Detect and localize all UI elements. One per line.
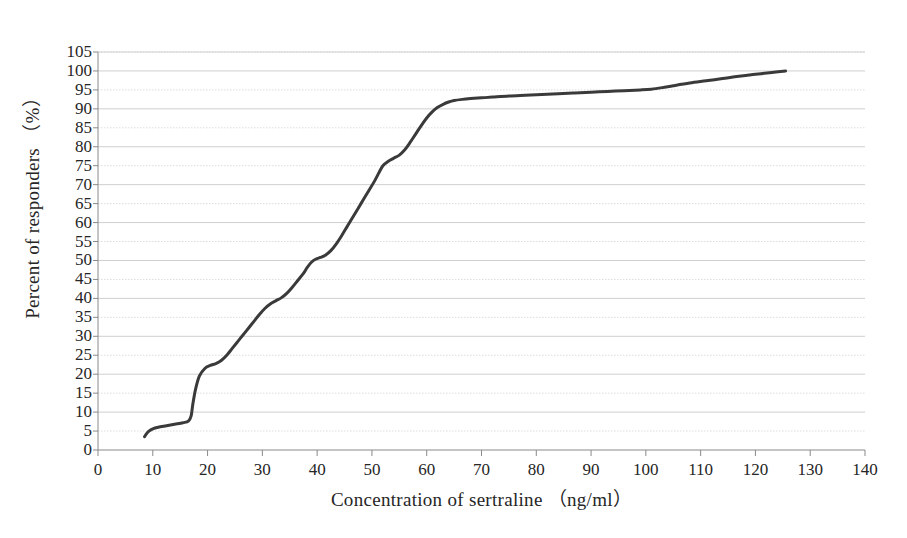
chart-figure: 0510152025303540455055606570758085909510… <box>0 0 907 538</box>
x-tick-label: 120 <box>730 460 780 480</box>
x-axis-title: Concentration of sertraline （ng/ml） <box>98 484 865 511</box>
x-tick-label: 40 <box>292 460 342 480</box>
x-tick-label: 30 <box>237 460 287 480</box>
x-tick-label: 80 <box>511 460 561 480</box>
x-tick-label: 100 <box>621 460 671 480</box>
x-tick-label: 90 <box>566 460 616 480</box>
x-tick-label: 140 <box>840 460 890 480</box>
x-tick-label: 50 <box>347 460 397 480</box>
x-tick-label: 110 <box>676 460 726 480</box>
x-tick-label: 70 <box>457 460 507 480</box>
x-tick-label: 0 <box>73 460 123 480</box>
x-tick-label: 130 <box>785 460 835 480</box>
x-axis-tick-labels: 0102030405060708090100110120130140 <box>0 0 907 538</box>
x-tick-label: 20 <box>183 460 233 480</box>
x-tick-label: 60 <box>402 460 452 480</box>
x-tick-label: 10 <box>128 460 178 480</box>
y-axis-title: Percent of responders （%） <box>17 24 44 384</box>
